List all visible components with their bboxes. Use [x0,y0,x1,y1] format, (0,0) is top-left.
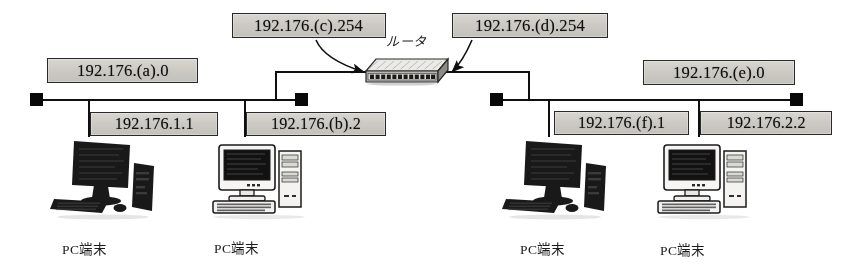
pc-terminal-label-1-text: PC端末 [62,242,106,257]
ip-label-router-left-text: 192.176.(c).254 [255,16,364,36]
bus-line-right [496,99,797,101]
ip-label-host-left-1: 192.176.1.1 [90,112,218,136]
pc-crt-icon-4 [652,141,760,221]
ip-label-net-left: 192.176.(a).0 [47,58,198,83]
router-icon [362,55,452,87]
ip-label-host-left-2-text: 192.176.(b).2 [271,114,361,134]
pc-terminal-label-2-text: PC端末 [214,241,258,256]
riser-right-to-router [528,71,530,100]
drop-line-pc-4 [698,99,700,137]
callout-arrow-left [316,40,364,72]
ip-label-net-right: 192.176.(e).0 [643,60,795,85]
ip-label-net-right-text: 192.176.(e).0 [673,63,765,83]
feed-left-to-router [275,71,370,73]
network-diagram: 192.176.(a).0 192.176.(c).254 192.176.(d… [0,0,845,271]
pc-terminal-label-3-text: PC端末 [520,242,564,257]
bus-terminator-left-end [295,93,308,106]
drop-line-pc-2 [244,99,246,137]
pc-terminal-label-1: PC端末 [62,238,106,258]
ip-label-router-right-text: 192.176.(d).254 [475,16,585,36]
router-label-text: ルータ [386,34,427,49]
ip-label-host-right-1-text: 192.176.(f).1 [578,113,665,133]
pc-terminal-label-4-text: PC端末 [660,243,704,258]
drop-line-pc-1 [88,99,90,137]
bus-line-left [36,99,305,101]
ip-label-host-right-1: 192.176.(f).1 [554,111,689,135]
pc-crt-icon-2 [207,141,315,221]
pc-flatpanel-icon-3 [500,139,618,221]
bus-terminator-left-start [30,93,43,106]
ip-label-net-left-text: 192.176.(a).0 [77,61,169,81]
ip-label-router-right: 192.176.(d).254 [452,13,608,38]
ip-label-host-right-2: 192.176.2.2 [700,111,832,135]
bus-terminator-right-end [790,93,803,106]
ip-label-host-right-2-text: 192.176.2.2 [727,113,806,133]
ip-label-host-left-1-text: 192.176.1.1 [115,114,194,134]
pc-terminal-label-4: PC端末 [660,239,704,259]
pc-terminal-label-2: PC端末 [214,237,258,257]
bus-terminator-right-start [490,93,503,106]
ip-label-host-left-2: 192.176.(b).2 [246,112,386,136]
pc-terminal-label-3: PC端末 [520,238,564,258]
ip-label-router-left: 192.176.(c).254 [232,13,386,38]
riser-left-to-router [275,71,277,100]
pc-flatpanel-icon-1 [48,139,166,221]
router-label: ルータ [386,31,427,50]
drop-line-pc-3 [548,99,550,137]
callout-arrow-right [452,40,472,72]
